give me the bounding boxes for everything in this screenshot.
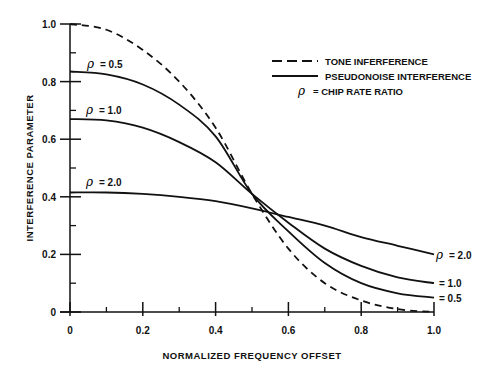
rho-symbol: ρ xyxy=(85,103,93,117)
y-axis-label: INTERFERENCE PARAMETER xyxy=(24,95,35,242)
rho-symbol: ρ xyxy=(85,175,93,189)
interference-chart: 00.20.40.60.81.000.20.40.60.81.0 INTERFE… xyxy=(0,0,501,379)
y-tick-label: 0.8 xyxy=(42,77,56,88)
label-rho-0.5-right: = 0.5 xyxy=(439,293,462,304)
label-rho-2.0-right: = 2.0 xyxy=(449,250,472,261)
legend-tone-label: TONE INFERFERENCE xyxy=(325,56,428,67)
tone-interference-curve xyxy=(70,24,434,312)
curve-labels-right: ρ = 2.0 = 1.0 = 0.5 xyxy=(435,248,472,304)
x-tick-label: 0 xyxy=(67,325,73,336)
label-rho-0.5-left: = 0.5 xyxy=(100,59,123,70)
curves xyxy=(70,24,434,312)
label-rho-1.0-left: = 1.0 xyxy=(99,105,122,116)
x-tick-label: 0.6 xyxy=(281,325,295,336)
legend: TONE INFERFERENCE PSEUDONOISE INTERFEREN… xyxy=(272,56,471,98)
x-tick-label: 0.8 xyxy=(354,325,368,336)
y-tick-label: 0 xyxy=(50,307,56,318)
x-tick-label: 1.0 xyxy=(427,325,441,336)
rho-symbol: ρ xyxy=(86,57,94,71)
legend-rho-label: = CHIP RATE RATIO xyxy=(313,86,403,97)
rho-symbol: ρ xyxy=(435,248,443,262)
y-tick-label: 0.4 xyxy=(42,192,56,203)
pseudonoise-curve-3 xyxy=(70,192,434,254)
y-tick-label: 1.0 xyxy=(42,19,56,30)
pseudonoise-curve-2 xyxy=(70,119,434,283)
x-tick-label: 0.4 xyxy=(209,325,223,336)
y-tick-label: 0.6 xyxy=(42,134,56,145)
x-tick-label: 0.2 xyxy=(136,325,150,336)
x-axis-label: NORMALIZED FREQUENCY OFFSET xyxy=(162,350,341,361)
legend-pn-label: PSEUDONOISE INTERFERENCE xyxy=(325,71,471,82)
pseudonoise-curve-1 xyxy=(70,72,434,298)
label-rho-2.0-left: = 2.0 xyxy=(99,177,122,188)
rho-symbol: ρ xyxy=(297,84,305,98)
y-tick-label: 0.2 xyxy=(42,249,56,260)
label-rho-1.0-right: = 1.0 xyxy=(439,278,462,289)
